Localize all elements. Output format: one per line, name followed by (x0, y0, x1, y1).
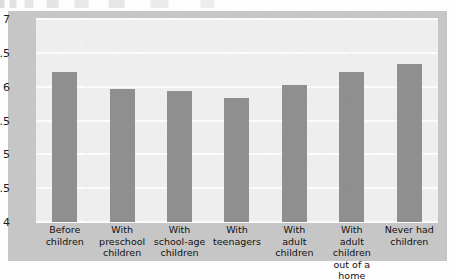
bar-3 (167, 91, 192, 222)
x-label-6: Withadult childrenout of a home (323, 224, 380, 280)
x-label-line: preschool (94, 236, 149, 248)
x-label-line: school-age (152, 236, 207, 248)
y-tick-label: 5.5 (0, 116, 10, 127)
x-label-line: adult children (324, 236, 379, 259)
bar-1 (52, 72, 77, 222)
bar-slot (266, 19, 323, 222)
bar-slot (381, 19, 438, 222)
x-label-line: With (152, 224, 207, 236)
chart-page: 76.565.554.54 BeforechildrenWithpreschoo… (0, 0, 455, 280)
x-label-line: out of a home (324, 259, 379, 280)
x-label-line: Never had (382, 224, 437, 236)
x-label-line: With (267, 224, 322, 236)
y-tick-label: 4.5 (0, 183, 10, 194)
bar-slot (151, 19, 208, 222)
bar-7 (397, 64, 422, 222)
x-label-4: Withteenagers (208, 224, 265, 280)
x-label-7: Never hadchildren (381, 224, 438, 280)
x-label-3: Withschool-agechildren (151, 224, 208, 280)
x-label-line: children (152, 247, 207, 259)
bar-4 (224, 98, 249, 223)
x-label-line: Before (37, 224, 92, 236)
x-label-1: Beforechildren (36, 224, 93, 280)
x-label-line: adult (267, 236, 322, 248)
bar-slot (36, 19, 93, 222)
y-tick-label: 4 (0, 217, 10, 228)
x-label-line: With (209, 224, 264, 236)
x-label-line: children (94, 247, 149, 259)
y-tick-label: 6 (0, 82, 10, 93)
bar-slot (93, 19, 150, 222)
x-label-line: With (94, 224, 149, 236)
x-label-line: children (267, 247, 322, 259)
bar-2 (110, 89, 135, 222)
x-label-2: Withpreschoolchildren (93, 224, 150, 280)
scan-artifact-strip (0, 0, 455, 8)
x-label-5: Withadultchildren (266, 224, 323, 280)
bar-slot (323, 19, 380, 222)
x-label-line: With (324, 224, 379, 236)
x-label-line: children (382, 236, 437, 248)
x-label-line: children (37, 236, 92, 248)
x-axis-category-labels: BeforechildrenWithpreschoolchildrenWiths… (36, 224, 438, 280)
bar-slot (208, 19, 265, 222)
bar-5 (282, 85, 307, 222)
bar-6 (339, 72, 364, 222)
y-tick-label: 6.5 (0, 48, 10, 59)
x-label-line: teenagers (209, 236, 264, 248)
y-tick-label: 5 (0, 149, 10, 160)
y-tick-label: 7 (0, 14, 10, 25)
bar-series (36, 19, 438, 222)
